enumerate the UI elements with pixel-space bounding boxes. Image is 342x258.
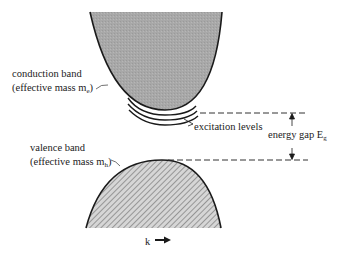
valence-band-label: valence band <box>30 142 86 153</box>
energy-gap-label: energy gap Eg <box>268 129 327 142</box>
k-axis-label: k <box>145 236 151 247</box>
valence-band-fill <box>86 160 221 228</box>
valence-band-mass-label: (effective mass mh) <box>30 156 112 169</box>
conduction-band-fill <box>90 12 222 110</box>
conduction-band-leader <box>96 85 108 89</box>
band-diagram: conduction band (effective mass me) vale… <box>0 0 342 258</box>
valence-band-leader <box>111 160 120 166</box>
conduction-band-label: conduction band <box>12 68 82 79</box>
excitation-levels-label: excitation levels <box>194 121 263 132</box>
conduction-band <box>90 12 222 110</box>
valence-band <box>86 160 221 228</box>
conduction-band-mass-label: (effective mass me) <box>12 82 94 95</box>
k-axis-arrow-icon <box>155 237 171 244</box>
